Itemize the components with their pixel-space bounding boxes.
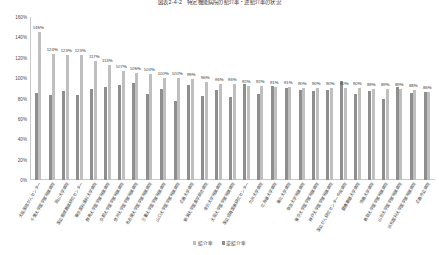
bar-shoukai-ritsu[interactable]	[52, 54, 55, 180]
bar-gyaku-shoukai-ritsu[interactable]	[76, 95, 79, 180]
bar-group[interactable]: 94%	[212, 17, 226, 180]
bar-shoukai-ritsu[interactable]	[247, 86, 250, 180]
bar-gyaku-shoukai-ritsu[interactable]	[271, 86, 274, 180]
bar-shoukai-ritsu[interactable]	[372, 89, 375, 180]
bar-shoukai-ritsu[interactable]	[94, 61, 97, 180]
bar-shoukai-ritsu[interactable]	[233, 84, 236, 180]
bar-shoukai-ritsu[interactable]	[302, 88, 305, 180]
bar-gyaku-shoukai-ritsu[interactable]	[160, 89, 163, 180]
bar-group[interactable]: 92%	[239, 17, 253, 180]
bar-shoukai-ritsu[interactable]	[358, 88, 361, 180]
bar-group[interactable]: 89%	[364, 17, 378, 180]
bar-group[interactable]: 113%	[100, 17, 114, 180]
bar-gyaku-shoukai-ritsu[interactable]	[90, 89, 93, 180]
bar-gyaku-shoukai-ritsu[interactable]	[35, 93, 38, 180]
bar-gyaku-shoukai-ritsu[interactable]	[215, 90, 218, 180]
bar-value-label: 105%	[130, 67, 141, 72]
bar-value-label: 90%	[325, 82, 334, 87]
bar-group[interactable]: 92%	[253, 17, 267, 180]
bar-gyaku-shoukai-ritsu[interactable]	[174, 101, 177, 180]
bar-shoukai-ritsu[interactable]	[288, 87, 291, 180]
bar-gyaku-shoukai-ritsu[interactable]	[299, 90, 302, 180]
bar-gyaku-shoukai-ritsu[interactable]	[396, 87, 399, 180]
bar-gyaku-shoukai-ritsu[interactable]	[326, 90, 329, 180]
bar-group[interactable]: 117%	[87, 17, 101, 180]
bar-group[interactable]: 90%	[350, 17, 364, 180]
bar-value-label: 86%	[423, 86, 432, 91]
bar-gyaku-shoukai-ritsu[interactable]	[187, 85, 190, 180]
bar-gyaku-shoukai-ritsu[interactable]	[340, 81, 343, 180]
legend-item[interactable]: 紹介率	[193, 240, 213, 246]
bar-group[interactable]: 90%	[337, 17, 351, 180]
bar-shoukai-ritsu[interactable]	[191, 79, 194, 180]
bar-shoukai-ritsu[interactable]	[330, 88, 333, 180]
bar-group[interactable]: 124%	[45, 17, 59, 180]
bar-gyaku-shoukai-ritsu[interactable]	[424, 92, 427, 180]
bar-group[interactable]: 90%	[295, 17, 309, 180]
bar-gyaku-shoukai-ritsu[interactable]	[146, 94, 149, 180]
bar-gyaku-shoukai-ritsu[interactable]	[382, 99, 385, 181]
bar-group[interactable]: 94%	[225, 17, 239, 180]
chart-container: 図表2-4-2 特定機能病院の紹介率・逆紹介率の状況 160%140%120%1…	[0, 0, 439, 255]
y-axis-tick: 120%	[15, 55, 27, 60]
bar-group[interactable]: 96%	[198, 17, 212, 180]
bar-gyaku-shoukai-ritsu[interactable]	[201, 96, 204, 180]
bar-gyaku-shoukai-ritsu[interactable]	[243, 84, 246, 180]
bar-shoukai-ritsu[interactable]	[274, 87, 277, 180]
bar-shoukai-ritsu[interactable]	[163, 78, 166, 180]
bar-value-label: 94%	[214, 78, 223, 83]
bar-shoukai-ritsu[interactable]	[149, 74, 152, 180]
bar-group[interactable]: 99%	[184, 17, 198, 180]
bar-shoukai-ritsu[interactable]	[399, 89, 402, 180]
bar-shoukai-ritsu[interactable]	[38, 32, 41, 180]
bar-gyaku-shoukai-ritsu[interactable]	[257, 94, 260, 180]
bar-gyaku-shoukai-ritsu[interactable]	[62, 91, 65, 180]
bar-group[interactable]: 88%	[406, 17, 420, 180]
bar-group[interactable]: 89%	[392, 17, 406, 180]
bar-shoukai-ritsu[interactable]	[219, 84, 222, 180]
bar-gyaku-shoukai-ritsu[interactable]	[118, 85, 121, 180]
bar-gyaku-shoukai-ritsu[interactable]	[285, 88, 288, 180]
bar-group[interactable]: 104%	[142, 17, 156, 180]
bar-group[interactable]: 91%	[267, 17, 281, 180]
bar-value-label: 94%	[228, 78, 237, 83]
bar-group[interactable]: 107%	[114, 17, 128, 180]
bar-shoukai-ritsu[interactable]	[135, 73, 138, 180]
bar-group[interactable]: 90%	[309, 17, 323, 180]
bar-value-label: 96%	[200, 76, 209, 81]
bar-gyaku-shoukai-ritsu[interactable]	[354, 94, 357, 180]
bar-shoukai-ritsu[interactable]	[177, 78, 180, 180]
bar-group[interactable]: 91%	[281, 17, 295, 180]
bar-gyaku-shoukai-ritsu[interactable]	[312, 91, 315, 180]
bar-shoukai-ritsu[interactable]	[66, 55, 69, 180]
bar-shoukai-ritsu[interactable]	[386, 89, 389, 180]
bar-gyaku-shoukai-ritsu[interactable]	[368, 91, 371, 180]
bar-shoukai-ritsu[interactable]	[413, 90, 416, 180]
bar-shoukai-ritsu[interactable]	[316, 88, 319, 180]
bar-shoukai-ritsu[interactable]	[205, 82, 208, 180]
bar-shoukai-ritsu[interactable]	[122, 71, 125, 180]
bar-gyaku-shoukai-ritsu[interactable]	[104, 87, 107, 180]
bar-group[interactable]: 89%	[378, 17, 392, 180]
bar-shoukai-ritsu[interactable]	[260, 86, 263, 180]
bar-value-label: 117%	[88, 55, 99, 60]
bar-shoukai-ritsu[interactable]	[344, 88, 347, 180]
bar-group[interactable]: 105%	[128, 17, 142, 180]
bar-group[interactable]: 123%	[59, 17, 73, 180]
bar-group[interactable]: 100%	[156, 17, 170, 180]
bar-group[interactable]: 90%	[323, 17, 337, 180]
bar-shoukai-ritsu[interactable]	[108, 65, 111, 180]
bar-group[interactable]: 123%	[73, 17, 87, 180]
bar-gyaku-shoukai-ritsu[interactable]	[410, 93, 413, 180]
bar-group[interactable]: 145%	[31, 17, 45, 180]
bar-group[interactable]: 100%	[170, 17, 184, 180]
bar-gyaku-shoukai-ritsu[interactable]	[229, 97, 232, 180]
legend-item[interactable]: 逆紹介率	[222, 240, 247, 246]
bar-value-label: 91%	[284, 81, 293, 86]
bar-shoukai-ritsu[interactable]	[80, 55, 83, 180]
bar-group[interactable]: 86%	[420, 17, 434, 180]
bar-shoukai-ritsu[interactable]	[427, 92, 430, 180]
bar-gyaku-shoukai-ritsu[interactable]	[49, 95, 52, 180]
bar-series-group: 145%124%123%123%117%113%107%105%104%100%…	[30, 17, 435, 180]
bar-gyaku-shoukai-ritsu[interactable]	[132, 83, 135, 180]
